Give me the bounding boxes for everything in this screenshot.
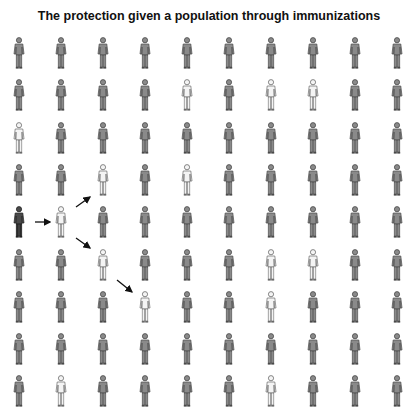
person-icon	[348, 79, 362, 111]
person-immunized	[348, 249, 362, 281]
person-immunized	[12, 37, 26, 69]
arrow-icon	[76, 197, 90, 207]
person-immunized	[306, 122, 320, 154]
person-immunized	[390, 37, 404, 69]
person-immunized	[348, 164, 362, 196]
person-susceptible	[306, 249, 320, 281]
person-icon	[264, 37, 278, 69]
person-icon	[138, 291, 152, 323]
person-immunized	[390, 164, 404, 196]
person-immunized	[138, 249, 152, 281]
person-immunized	[180, 249, 194, 281]
person-immunized	[222, 206, 236, 238]
person-icon	[306, 79, 320, 111]
person-icon	[264, 291, 278, 323]
person-immunized	[306, 164, 320, 196]
person-immunized	[348, 37, 362, 69]
person-icon	[138, 122, 152, 154]
arrow-icon	[117, 280, 132, 292]
person-icon	[12, 249, 26, 281]
person-icon	[306, 333, 320, 365]
person-icon	[54, 164, 68, 196]
person-immunized	[222, 164, 236, 196]
person-icon	[390, 164, 404, 196]
person-immunized	[390, 206, 404, 238]
person-infected	[12, 206, 26, 238]
person-icon	[180, 122, 194, 154]
person-susceptible	[180, 79, 194, 111]
person-icon	[264, 375, 278, 407]
person-immunized	[180, 333, 194, 365]
person-immunized	[264, 164, 278, 196]
person-icon	[96, 37, 110, 69]
person-icon	[12, 37, 26, 69]
person-immunized	[306, 333, 320, 365]
diagram-title: The protection given a population throug…	[0, 9, 418, 23]
person-icon	[306, 164, 320, 196]
person-icon	[348, 37, 362, 69]
person-icon	[54, 333, 68, 365]
person-icon	[264, 122, 278, 154]
person-icon	[264, 79, 278, 111]
person-susceptible	[54, 375, 68, 407]
person-icon	[306, 206, 320, 238]
person-immunized	[348, 375, 362, 407]
person-immunized	[348, 291, 362, 323]
person-susceptible	[96, 249, 110, 281]
person-icon	[180, 249, 194, 281]
person-icon	[264, 164, 278, 196]
person-immunized	[96, 206, 110, 238]
person-immunized	[12, 249, 26, 281]
person-susceptible	[306, 79, 320, 111]
person-icon	[222, 291, 236, 323]
person-icon	[138, 333, 152, 365]
person-icon	[96, 206, 110, 238]
person-icon	[138, 375, 152, 407]
person-susceptible	[54, 206, 68, 238]
person-immunized	[348, 79, 362, 111]
person-icon	[264, 249, 278, 281]
person-immunized	[264, 333, 278, 365]
person-immunized	[222, 291, 236, 323]
person-icon	[180, 37, 194, 69]
person-immunized	[54, 291, 68, 323]
person-icon	[54, 122, 68, 154]
person-icon	[12, 333, 26, 365]
person-immunized	[54, 333, 68, 365]
person-icon	[96, 375, 110, 407]
person-icon	[348, 249, 362, 281]
person-icon	[180, 291, 194, 323]
person-icon	[54, 79, 68, 111]
person-icon	[390, 291, 404, 323]
person-icon	[222, 164, 236, 196]
person-immunized	[348, 333, 362, 365]
person-icon	[96, 333, 110, 365]
person-icon	[390, 375, 404, 407]
person-susceptible	[12, 122, 26, 154]
person-icon	[138, 37, 152, 69]
person-icon	[12, 79, 26, 111]
person-immunized	[138, 333, 152, 365]
person-immunized	[222, 122, 236, 154]
person-immunized	[306, 291, 320, 323]
person-immunized	[264, 206, 278, 238]
person-susceptible	[180, 164, 194, 196]
person-susceptible	[264, 375, 278, 407]
person-icon	[96, 122, 110, 154]
arrow-icon	[76, 238, 90, 248]
person-immunized	[390, 79, 404, 111]
person-immunized	[54, 37, 68, 69]
person-icon	[264, 333, 278, 365]
person-immunized	[54, 249, 68, 281]
person-immunized	[96, 79, 110, 111]
person-immunized	[54, 122, 68, 154]
person-susceptible	[264, 291, 278, 323]
person-icon	[96, 164, 110, 196]
person-immunized	[222, 375, 236, 407]
person-immunized	[54, 164, 68, 196]
person-immunized	[180, 206, 194, 238]
person-immunized	[96, 37, 110, 69]
person-immunized	[390, 122, 404, 154]
person-icon	[12, 291, 26, 323]
person-icon	[348, 375, 362, 407]
